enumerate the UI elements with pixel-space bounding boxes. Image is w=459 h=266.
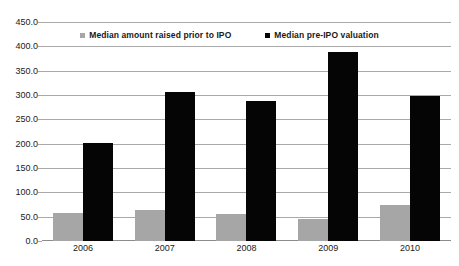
bar[interactable] [53,213,83,241]
x-axis-tick-label: 2007 [124,243,206,261]
legend-label-valuation: Median pre-IPO valuation [274,30,378,40]
bar[interactable] [165,92,195,241]
bar-group [369,22,451,241]
bar[interactable] [83,143,113,241]
y-axis-tick-label: 50.0 [0,212,38,222]
bar[interactable] [380,205,410,241]
bar-group [42,22,124,241]
x-axis-tick-label: 2009 [287,243,369,261]
y-axis-tick-label: 200.0 [0,139,38,149]
bar-group [287,22,369,241]
chart-legend: Median amount raised prior to IPO Median… [0,27,459,43]
bar[interactable] [246,101,276,241]
bar-groups [42,22,451,241]
y-axis-tick-label: 0.0 [0,236,38,246]
y-axis-tick-label: 300.0 [0,90,38,100]
legend-label-raised: Median amount raised prior to IPO [89,30,231,40]
legend-entry-valuation[interactable]: Median pre-IPO valuation [265,30,378,40]
y-axis-tick-label: 100.0 [0,187,38,197]
bar[interactable] [135,210,165,241]
bar[interactable] [216,214,246,241]
bar-group [206,22,288,241]
bar[interactable] [410,96,440,241]
bar[interactable] [298,219,328,241]
x-axis-tick-label: 2010 [369,243,451,261]
bar-group [124,22,206,241]
y-axis: 450.0400.0350.0300.0250.0200.0150.0100.0… [0,22,38,241]
bar[interactable] [328,52,358,241]
x-axis-labels: 20062007200820092010 [42,243,451,261]
bar-chart: Median amount raised prior to IPO Median… [0,0,459,266]
x-axis-tick-label: 2008 [206,243,288,261]
x-axis-tick-label: 2006 [42,243,124,261]
y-axis-tick-label: 350.0 [0,66,38,76]
legend-swatch-valuation-icon [265,33,270,38]
legend-swatch-raised-icon [80,33,85,38]
y-axis-tick-label: 150.0 [0,163,38,173]
y-axis-tick-mark [38,241,42,242]
y-axis-tick-label: 450.0 [0,17,38,27]
y-axis-tick-label: 250.0 [0,114,38,124]
legend-entry-raised[interactable]: Median amount raised prior to IPO [80,30,231,40]
